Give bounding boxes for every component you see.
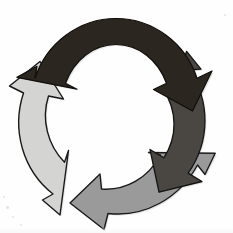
cycle-diagram-svg: [0, 0, 233, 233]
cycle-diagram-canvas: [0, 0, 233, 233]
